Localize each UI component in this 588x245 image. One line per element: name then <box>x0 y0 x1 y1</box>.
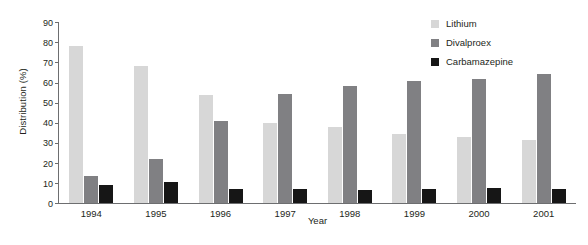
y-tick-label: 70 <box>39 58 53 68</box>
legend: LithiumDivalproexCarbamazepine <box>431 14 513 71</box>
bar-lithium-1994[interactable] <box>69 46 83 203</box>
y-tick-label: 50 <box>39 98 53 108</box>
bar-carbamazepine-1995[interactable] <box>164 182 178 203</box>
x-axis-line <box>58 203 576 204</box>
legend-item-lithium[interactable]: Lithium <box>431 14 513 33</box>
bar-divalproex-1996[interactable] <box>214 121 228 203</box>
bar-divalproex-2001[interactable] <box>537 74 551 203</box>
y-tick-label: 0 <box>39 199 53 209</box>
bar-divalproex-1994[interactable] <box>84 176 98 203</box>
bar-lithium-1996[interactable] <box>199 95 213 203</box>
bar-chart-figure: Distribution (%) 0102030405060708090 199… <box>0 0 588 245</box>
x-axis-title: Year <box>59 215 576 226</box>
y-tick: 20 <box>39 154 59 172</box>
legend-label: Divalproex <box>446 37 491 48</box>
y-tick-label: 20 <box>39 159 53 169</box>
y-tick-mark <box>55 203 59 204</box>
y-tick-label: 10 <box>39 179 53 189</box>
bar-carbamazepine-1999[interactable] <box>422 189 436 203</box>
bar-group: 1996 <box>188 22 253 203</box>
bar-lithium-1997[interactable] <box>263 123 277 203</box>
y-tick: 10 <box>39 174 59 192</box>
bar-carbamazepine-1996[interactable] <box>229 189 243 203</box>
bar-divalproex-1995[interactable] <box>149 159 163 203</box>
legend-label: Carbamazepine <box>446 56 513 67</box>
y-tick-label: 90 <box>39 18 53 28</box>
y-tick: 70 <box>39 53 59 71</box>
bar-divalproex-2000[interactable] <box>472 79 486 203</box>
bar-carbamazepine-1998[interactable] <box>358 190 372 203</box>
bar-carbamazepine-2000[interactable] <box>487 188 501 203</box>
bar-divalproex-1999[interactable] <box>407 81 421 203</box>
legend-label: Lithium <box>446 18 477 29</box>
y-tick-label: 60 <box>39 78 53 88</box>
legend-item-divalproex[interactable]: Divalproex <box>431 33 513 52</box>
bar-group: 1994 <box>59 22 124 203</box>
bar-lithium-1999[interactable] <box>392 134 406 203</box>
y-tick: 90 <box>39 13 59 31</box>
bar-group: 1995 <box>124 22 189 203</box>
bar-group: 1998 <box>318 22 383 203</box>
bar-lithium-1995[interactable] <box>134 66 148 203</box>
legend-item-carbamazepine[interactable]: Carbamazepine <box>431 52 513 71</box>
bar-carbamazepine-1997[interactable] <box>293 189 307 203</box>
bar-group: 2001 <box>511 22 576 203</box>
legend-swatch-icon <box>431 58 439 66</box>
y-tick: 80 <box>39 33 59 51</box>
y-tick: 0 <box>39 194 59 212</box>
y-axis-title: Distribution (%) <box>17 42 28 162</box>
bar-carbamazepine-2001[interactable] <box>552 189 566 203</box>
bar-lithium-2001[interactable] <box>522 140 536 203</box>
y-tick-label: 30 <box>39 138 53 148</box>
bar-lithium-1998[interactable] <box>328 127 342 203</box>
y-tick: 50 <box>39 93 59 111</box>
bar-divalproex-1997[interactable] <box>278 94 292 203</box>
bar-group: 1997 <box>253 22 318 203</box>
bar-divalproex-1998[interactable] <box>343 86 357 203</box>
bar-carbamazepine-1994[interactable] <box>99 185 113 203</box>
legend-swatch-icon <box>431 39 439 47</box>
legend-swatch-icon <box>431 20 439 28</box>
y-tick-label: 40 <box>39 118 53 128</box>
y-tick: 40 <box>39 114 59 132</box>
y-tick-label: 80 <box>39 38 53 48</box>
y-tick: 60 <box>39 73 59 91</box>
bar-lithium-2000[interactable] <box>457 137 471 203</box>
y-tick: 30 <box>39 134 59 152</box>
